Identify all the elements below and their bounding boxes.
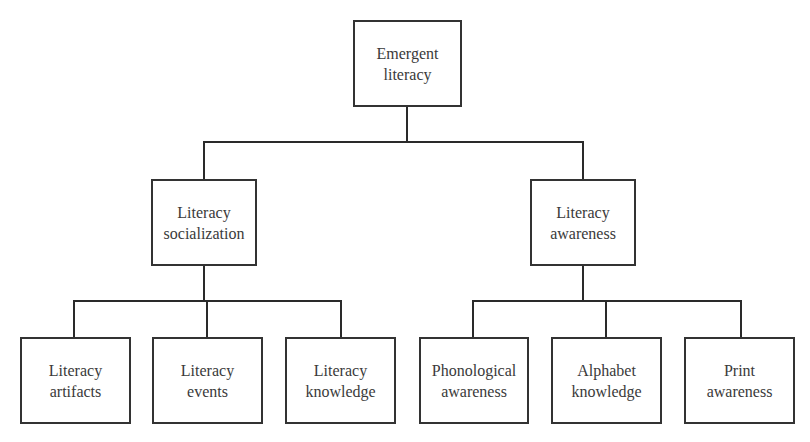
node-label: Phonological: [432, 360, 516, 381]
node-label: artifacts: [50, 381, 102, 402]
node-label: socialization: [164, 223, 245, 244]
node-label: knowledge: [571, 381, 641, 402]
connector-to-events: [206, 300, 208, 338]
connector-to-alphabet: [605, 300, 607, 338]
connector-right-horizontal: [472, 300, 742, 302]
node-literacy-awareness: Literacy awareness: [530, 179, 636, 266]
connector-to-phonological: [472, 300, 474, 338]
node-alphabet-knowledge: Alphabet knowledge: [551, 337, 662, 424]
connector-to-awareness: [582, 141, 584, 180]
connector-root-down: [406, 106, 408, 143]
connector-to-knowledge: [340, 300, 342, 338]
node-label: awareness: [550, 223, 616, 244]
node-label: Print: [724, 360, 755, 381]
node-label: knowledge: [305, 381, 375, 402]
connector-to-artifacts: [73, 300, 75, 338]
connector-socialization-down: [203, 264, 205, 302]
connector-awareness-down: [582, 264, 584, 302]
node-label: Literacy: [556, 202, 609, 223]
node-literacy-artifacts: Literacy artifacts: [20, 337, 131, 424]
node-label: Emergent: [377, 43, 439, 64]
node-label: literacy: [384, 64, 432, 85]
node-label: Literacy: [49, 360, 102, 381]
node-label: awareness: [441, 381, 507, 402]
node-label: events: [187, 381, 228, 402]
node-literacy-events: Literacy events: [152, 337, 263, 424]
node-label: awareness: [707, 381, 773, 402]
node-label: Literacy: [177, 202, 230, 223]
node-label: Literacy: [181, 360, 234, 381]
node-literacy-socialization: Literacy socialization: [151, 179, 257, 266]
node-label: Literacy: [314, 360, 367, 381]
connector-to-print: [740, 300, 742, 338]
node-emergent-literacy: Emergent literacy: [353, 20, 462, 107]
node-print-awareness: Print awareness: [684, 337, 795, 424]
connector-level2-horizontal: [204, 141, 584, 143]
node-literacy-knowledge: Literacy knowledge: [285, 337, 396, 424]
node-label: Alphabet: [577, 360, 636, 381]
connector-to-socialization: [203, 141, 205, 180]
node-phonological-awareness: Phonological awareness: [419, 337, 529, 424]
